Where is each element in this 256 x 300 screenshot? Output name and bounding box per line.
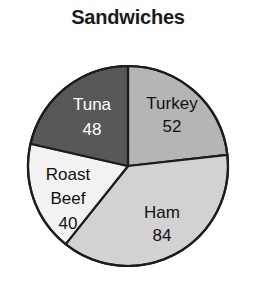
slice-label-tuna: Tuna xyxy=(73,95,112,114)
pie-chart-figure: Sandwiches Turkey52Ham84RoastBeef40Tuna4… xyxy=(0,0,256,300)
slice-label-roast-beef: Beef xyxy=(51,189,86,208)
slice-value-roast-beef: 40 xyxy=(59,214,78,233)
slice-label-roast-beef: Roast xyxy=(46,165,91,184)
slice-value-tuna: 48 xyxy=(83,120,102,139)
slice-value-turkey: 52 xyxy=(163,117,182,136)
pie-chart-svg: Turkey52Ham84RoastBeef40Tuna48 xyxy=(0,0,256,300)
slice-label-ham: Ham xyxy=(144,203,180,222)
slice-value-ham: 84 xyxy=(153,226,172,245)
slice-label-turkey: Turkey xyxy=(146,94,198,113)
pie-slice-turkey[interactable] xyxy=(128,66,227,166)
